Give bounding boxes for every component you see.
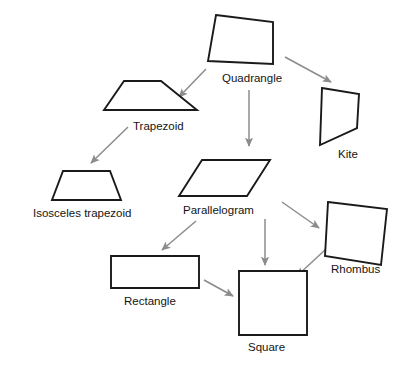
- shape-rhombus: [325, 202, 387, 265]
- label-isosceles-trapezoid: Isosceles trapezoid: [33, 207, 131, 219]
- label-trapezoid: Trapezoid: [133, 120, 184, 132]
- shape-rectangle: [111, 256, 199, 288]
- arrow-parallelogram-to-rectangle: [162, 221, 196, 250]
- diagram-canvas: QuadrangleTrapezoidKiteIsosceles trapezo…: [0, 0, 419, 367]
- label-rectangle: Rectangle: [124, 295, 176, 307]
- shape-trapezoid: [104, 81, 197, 110]
- label-parallelogram: Parallelogram: [183, 204, 254, 216]
- shape-parallelogram: [179, 160, 270, 196]
- arrow-parallelogram-to-rhombus: [282, 202, 319, 228]
- arrow-trapezoid-to-isosceles-trapezoid: [91, 127, 128, 163]
- quadrilateral-hierarchy-diagram: QuadrangleTrapezoidKiteIsosceles trapezo…: [0, 0, 419, 367]
- label-rhombus: Rhombus: [331, 263, 380, 275]
- label-kite: Kite: [338, 148, 358, 160]
- arrow-quadrangle-to-kite: [285, 57, 331, 82]
- shape-square: [239, 271, 307, 335]
- arrow-rectangle-to-square: [204, 280, 233, 296]
- shape-isosceles-trapezoid: [52, 171, 121, 200]
- shape-quadrangle: [208, 15, 273, 64]
- arrow-quadrangle-to-trapezoid: [179, 69, 206, 97]
- shape-kite: [320, 88, 359, 145]
- label-square: Square: [248, 341, 285, 353]
- shapes-layer: [52, 15, 387, 335]
- label-quadrangle: Quadrangle: [222, 72, 282, 84]
